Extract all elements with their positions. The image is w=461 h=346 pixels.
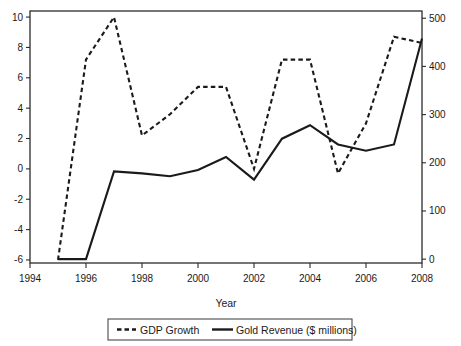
chart-legend: GDP Growth Gold Revenue ($ millions): [108, 319, 357, 340]
x-tick-label: 2008: [411, 273, 434, 284]
left-axis-tick-labels: -6-4-20246810: [12, 12, 24, 266]
left-tick-label: -2: [14, 194, 23, 205]
x-tick-label: 2000: [187, 273, 210, 284]
x-tick-label: 1994: [19, 273, 42, 284]
x-tick-label: 1996: [75, 273, 98, 284]
x-tick-label: 2002: [243, 273, 266, 284]
left-tick-label: -4: [14, 224, 23, 235]
line-chart: -6-4-20246810 0100200300400500 199419961…: [0, 0, 461, 346]
x-tick-label: 1998: [131, 273, 154, 284]
plot-area-frame: [30, 11, 422, 263]
chart-container: -6-4-20246810 0100200300400500 199419961…: [0, 0, 461, 346]
right-tick-label: 0: [429, 254, 435, 265]
x-axis-title: Year: [215, 297, 237, 309]
series-line-gold-revenue: [58, 38, 422, 259]
left-tick-label: 0: [17, 163, 23, 174]
x-tick-label: 2004: [299, 273, 322, 284]
right-axis-tick-labels: 0100200300400500: [429, 13, 446, 265]
left-tick-label: 2: [17, 133, 23, 144]
left-tick-label: 4: [17, 103, 23, 114]
right-tick-label: 300: [429, 109, 446, 120]
x-axis-tick-labels: 19941996199820002002200420062008: [19, 273, 434, 284]
right-tick-label: 100: [429, 205, 446, 216]
left-tick-label: 8: [17, 42, 23, 53]
left-tick-label: -6: [14, 254, 23, 265]
x-axis-ticks: [30, 263, 422, 268]
legend-label-gdp-growth: GDP Growth: [140, 324, 199, 336]
legend-label-gold-revenue: Gold Revenue ($ millions): [236, 324, 357, 336]
right-tick-label: 200: [429, 157, 446, 168]
x-tick-label: 2006: [355, 273, 378, 284]
right-tick-label: 500: [429, 13, 446, 24]
right-tick-label: 400: [429, 61, 446, 72]
left-tick-label: 10: [12, 12, 24, 23]
left-tick-label: 6: [17, 72, 23, 83]
series-line-gdp-growth: [58, 17, 422, 260]
